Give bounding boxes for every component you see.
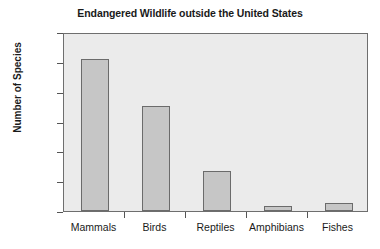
bar-reptiles [203,171,231,211]
bar-slot [81,34,109,211]
bar-slot [142,34,170,211]
bar-birds [142,106,170,211]
x-tick-mark [185,212,186,218]
x-tick-mark [124,212,125,218]
x-tick-mark [307,212,308,218]
bar-chart: Endangered Wildlife outside the United S… [0,0,380,249]
bar-slot [203,34,231,211]
bar-slot [264,34,292,211]
x-label-fishes: Fishes [322,221,353,233]
x-label-mammals: Mammals [71,221,117,233]
bar-mammals [81,59,109,211]
x-label-reptiles: Reptiles [197,221,235,233]
x-label-birds: Birds [143,221,167,233]
y-axis-title: Number of Species [12,23,23,153]
plot-area [63,33,368,212]
x-tick-mark [246,212,247,218]
x-label-amphibians: Amphibians [249,221,304,233]
bar-slot [325,34,353,211]
bar-fishes [325,203,353,211]
bar-series [64,34,367,211]
y-tick-mark [57,212,63,213]
bar-amphibians [264,206,292,211]
chart-title: Endangered Wildlife outside the United S… [0,7,380,19]
